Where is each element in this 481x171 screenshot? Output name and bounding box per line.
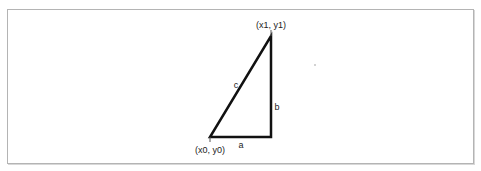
triangle-diagram: (x1, y1) (x0, y0) c b a (0, 0, 481, 171)
horizontal-side-label: a (238, 140, 243, 150)
end-point-label: (x1, y1) (256, 20, 286, 30)
vertical-side-label: b (274, 102, 279, 112)
start-point-label: (x0, y0) (195, 145, 225, 155)
right-triangle (210, 36, 271, 137)
hypotenuse-label: c (234, 80, 239, 90)
stray-dot (314, 64, 316, 66)
